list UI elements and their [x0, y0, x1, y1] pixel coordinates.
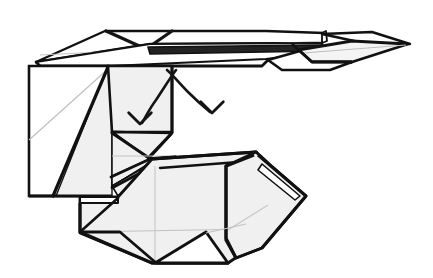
left-panel-group: [29, 66, 112, 196]
origami-diagram-canvas: [0, 0, 433, 278]
origami-figure-container: Origami folding step diagram: [0, 0, 433, 278]
